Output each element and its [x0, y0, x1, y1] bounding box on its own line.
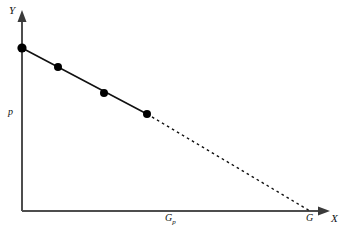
x-tick-label-gp-subscript: p [172, 218, 176, 226]
data-point-marker [100, 89, 108, 97]
x-axis-label: X [331, 213, 338, 224]
x-tick-label-g: G [306, 213, 313, 223]
data-point-marker [54, 63, 62, 71]
extrapolated-line-segment [147, 114, 310, 211]
chart-canvas [0, 0, 346, 235]
y-axis-arrowhead [18, 10, 27, 22]
y-axis-label: Y [9, 5, 15, 16]
y-tick-label-p: p [8, 107, 13, 117]
figure-container: Y X p Gp G [0, 0, 346, 235]
data-point-marker [143, 110, 151, 118]
x-tick-label-gp: Gp [165, 213, 176, 226]
x-axis-arrowhead [318, 207, 330, 216]
observed-line-segment [22, 48, 147, 114]
data-point-marker [17, 43, 26, 52]
